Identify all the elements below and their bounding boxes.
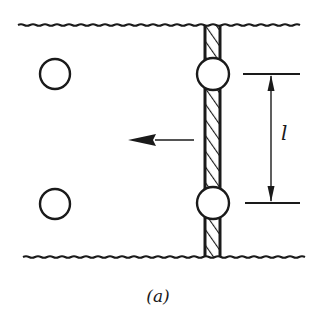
figure-caption: (a): [0, 286, 316, 306]
lower-rod-circle: [197, 187, 229, 219]
dimension-label: l: [281, 121, 287, 145]
lower-left-circle: [40, 189, 70, 219]
bottom-wavy-boundary: [23, 256, 305, 258]
upper-left-circle: [40, 59, 70, 89]
top-wavy-boundary: [18, 24, 300, 26]
upper-rod-circle: [197, 58, 229, 90]
diagram-figure: l (a): [0, 0, 316, 318]
dimension-marker: [243, 74, 300, 203]
left-arrow-icon: [128, 134, 194, 146]
